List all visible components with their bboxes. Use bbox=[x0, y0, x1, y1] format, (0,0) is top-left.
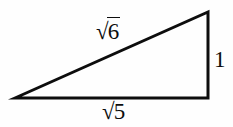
base-label: √5 bbox=[102, 100, 126, 123]
triangle-figure: √6 √5 1 bbox=[0, 0, 233, 127]
radicand-value: 5 bbox=[113, 97, 127, 124]
radicand-value: 6 bbox=[107, 17, 121, 44]
radical-sign-icon: √ bbox=[102, 99, 114, 124]
vertical-side-label: 1 bbox=[214, 48, 226, 71]
hypotenuse-label: √6 bbox=[96, 20, 120, 43]
sqrt-5-expression: √5 bbox=[102, 100, 126, 123]
radical-sign-icon: √ bbox=[96, 19, 108, 44]
sqrt-6-expression: √6 bbox=[96, 20, 120, 43]
